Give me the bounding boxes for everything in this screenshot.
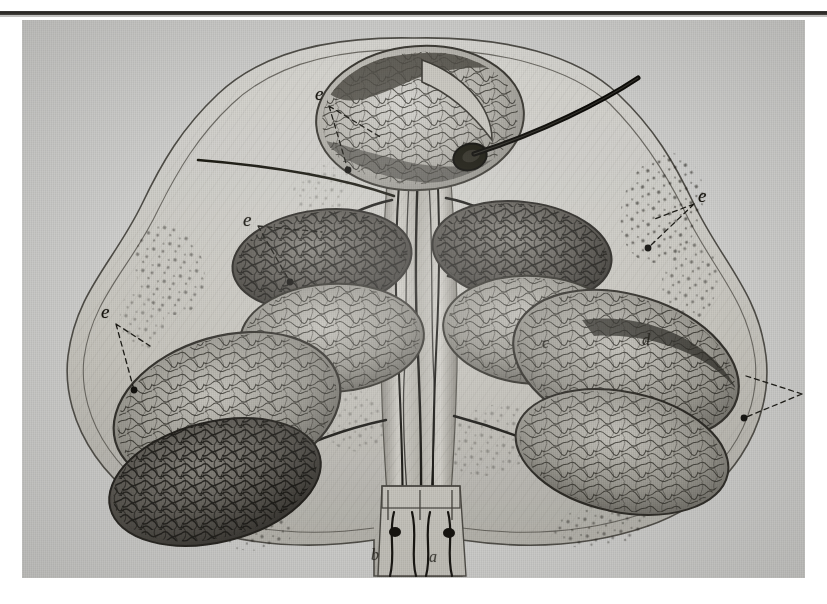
organ-stalk: [378, 486, 466, 576]
label-c-center-right: c: [542, 335, 549, 351]
caption-margin: [0, 578, 827, 604]
label-b-bottom-left: b: [371, 547, 379, 563]
top-printed-rule-shadow: [0, 15, 827, 17]
label-d-center-right: d: [642, 332, 650, 348]
label-e-mid-left: e: [243, 210, 251, 229]
anatomical-figure: [22, 20, 805, 578]
label-e-top-left: e: [315, 84, 323, 103]
label-e-right: e: [698, 186, 706, 205]
page-root: e e e e e d c b a: [0, 0, 827, 604]
engraving-plate: e e e e e d c b a: [22, 20, 805, 578]
label-e-far-left: e: [101, 302, 109, 321]
label-a-bottom-right: a: [429, 549, 437, 565]
